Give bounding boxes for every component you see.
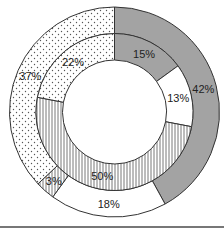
inner-slice-label: 50%: [91, 170, 113, 182]
outer-slice-label: 3%: [46, 175, 62, 187]
inner-slice-label: 22%: [62, 56, 84, 68]
inner-ring: [36, 34, 193, 191]
outer-slice-label: 42%: [192, 83, 214, 95]
double-donut-chart: 42%18%3%37%15%13%50%22%: [0, 0, 224, 229]
inner-slice-label: 13%: [167, 92, 189, 104]
outer-slice-label: 37%: [19, 70, 41, 82]
outer-slice-label: 18%: [98, 198, 120, 210]
inner-slice-label: 15%: [133, 48, 155, 60]
bottom-divider: [0, 226, 224, 228]
